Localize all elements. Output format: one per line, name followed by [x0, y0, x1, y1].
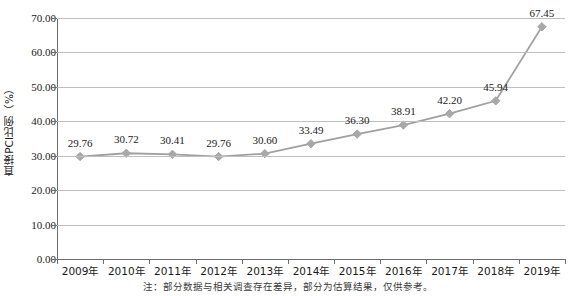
x-axis-tick-mark: [196, 259, 197, 264]
x-axis-tick-mark: [149, 259, 150, 264]
y-axis-tick-label: 30.00: [16, 150, 56, 161]
data-point-label: 30.72: [114, 134, 139, 145]
data-point-label: 30.60: [252, 135, 277, 146]
y-axis-tick-mark: [51, 156, 57, 157]
y-axis-tick-mark: [51, 121, 57, 122]
data-point-label: 29.76: [68, 138, 93, 149]
y-axis-tick-mark: [51, 87, 57, 88]
y-axis-tick-mark: [51, 225, 57, 226]
data-point-marker[interactable]: [168, 150, 176, 158]
data-point-label: 30.41: [160, 135, 185, 146]
x-axis-tick-label: 2012年: [200, 265, 237, 277]
data-point-marker[interactable]: [307, 139, 315, 147]
data-point-label: 45.94: [483, 82, 508, 93]
gridline: [57, 156, 565, 157]
x-axis-tick-label: 2018年: [477, 265, 514, 277]
x-axis-tick-mark: [519, 259, 520, 264]
figure-caption: 注：部分数据与相关调查存在差异，部分为估算结果，仅供参考。: [0, 281, 576, 293]
x-axis-tick-label: 2016年: [385, 265, 422, 277]
x-axis-tick-label: 2015年: [339, 265, 376, 277]
y-axis-tick-label: 20.00: [16, 185, 56, 196]
data-point-label: 36.30: [345, 115, 370, 126]
x-axis-tick-mark: [380, 259, 381, 264]
x-axis-tick-mark: [565, 259, 566, 264]
data-point-label: 67.45: [530, 8, 555, 19]
plot-area: 29.7630.7230.4129.7630.6033.4936.3038.91…: [57, 18, 565, 259]
data-point-marker[interactable]: [538, 23, 546, 31]
gridline: [57, 190, 565, 191]
y-axis-tick-mark: [51, 52, 57, 53]
x-axis-tick-mark: [473, 259, 474, 264]
x-axis-tick-label: 2019年: [524, 265, 561, 277]
x-axis-tick-mark: [426, 259, 427, 264]
x-axis-tick-mark: [288, 259, 289, 264]
gridline: [57, 18, 565, 19]
y-axis-tick-label: 70.00: [16, 13, 56, 24]
y-axis-tick-label: 40.00: [16, 116, 56, 127]
data-point-label: 38.91: [391, 106, 416, 117]
chart-container: 直接PCI比例（%） 0.0010.0020.0030.0040.0050.00…: [0, 0, 576, 296]
x-axis-tick-mark: [334, 259, 335, 264]
x-axis-tick-label: 2014年: [293, 265, 330, 277]
y-axis-tick-label: 0.00: [16, 254, 56, 265]
y-axis-tick-mark: [51, 259, 57, 260]
series-line: [80, 27, 542, 157]
data-point-marker[interactable]: [353, 130, 361, 138]
x-axis-tick-mark: [103, 259, 104, 264]
x-axis-tick-label: 2010年: [108, 265, 145, 277]
data-point-marker[interactable]: [445, 110, 453, 118]
x-axis-tick-mark: [57, 259, 58, 264]
x-axis-tick-label: 2017年: [431, 265, 468, 277]
x-axis-tick-label: 2013年: [246, 265, 283, 277]
gridline: [57, 52, 565, 53]
data-point-label: 33.49: [299, 125, 324, 136]
y-axis-tick-mark: [51, 190, 57, 191]
x-axis-line: [57, 259, 565, 260]
y-axis-tick-label: 50.00: [16, 81, 56, 92]
y-axis-tick-labels: 0.0010.0020.0030.0040.0050.0060.0070.00: [12, 0, 56, 296]
gridline: [57, 225, 565, 226]
y-axis-tick-mark: [51, 18, 57, 19]
x-axis-tick-mark: [242, 259, 243, 264]
gridline: [57, 121, 565, 122]
data-point-label: 29.76: [206, 138, 231, 149]
y-axis-tick-label: 10.00: [16, 219, 56, 230]
x-axis-tick-label: 2011年: [154, 265, 191, 277]
y-axis-tick-label: 60.00: [16, 47, 56, 58]
x-axis-tick-label: 2009年: [62, 265, 99, 277]
data-point-label: 42.20: [437, 95, 462, 106]
data-point-marker[interactable]: [492, 97, 500, 105]
